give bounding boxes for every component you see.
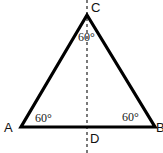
vertex-label-a: A	[4, 120, 13, 135]
angle-label-c: 60°	[78, 30, 95, 44]
foot-label-d: D	[90, 131, 99, 146]
angle-label-b: 60°	[122, 110, 139, 124]
vertex-label-b: B	[156, 120, 163, 135]
angle-label-a: 60°	[35, 111, 52, 125]
triangle-diagram: C A B D 60° 60° 60°	[0, 0, 163, 153]
vertex-label-c: C	[91, 0, 100, 15]
